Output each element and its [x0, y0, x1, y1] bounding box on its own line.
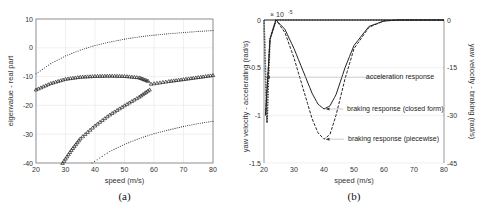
- x-tick-label: 70: [410, 166, 418, 173]
- x-tick-label: 20: [260, 166, 268, 173]
- y-tick-label: 10: [25, 16, 33, 23]
- chart-a: 20304050607080100-10-20-30-40speed (m/s)…: [6, 16, 217, 204]
- triangle-marker: [148, 88, 152, 91]
- x-tick-label: 30: [62, 166, 70, 173]
- y-left-axis-label: yaw velocity - accelerating (rad/s): [241, 40, 250, 152]
- y-axis-label: eigenvalue - real part: [6, 55, 15, 126]
- x-tick-label: 40: [91, 166, 99, 173]
- y-tick-label: -10: [23, 73, 33, 80]
- chart-b: 0-0.5-1-1.50-15-30-4520304050607080× 10-…: [241, 9, 477, 203]
- x-tick-label: 40: [320, 166, 328, 173]
- y-right-tick-label: -45: [447, 160, 457, 167]
- y-left-tick-label: 0: [257, 17, 261, 24]
- y-tick-label: -20: [23, 102, 33, 109]
- x-tick-label: 70: [180, 166, 188, 173]
- scale-exponent-power: -5: [288, 9, 293, 15]
- x-tick-label: 50: [350, 166, 358, 173]
- scale-exponent: × 10: [270, 11, 284, 18]
- caption: (a): [118, 190, 131, 203]
- y-tick-label: 0: [29, 44, 33, 51]
- x-tick-label: 20: [32, 166, 40, 173]
- x-tick-label: 80: [209, 166, 217, 173]
- y-right-axis-label: yaw velocity - braking (rad/s): [468, 44, 477, 140]
- x-axis-label: speed (m/s): [334, 176, 374, 185]
- y-right-tick-label: -15: [447, 64, 457, 71]
- annotation-label: braking response (piecewise): [348, 135, 439, 143]
- y-left-tick-label: -0.5: [249, 64, 261, 71]
- y-tick-label: -30: [23, 131, 33, 138]
- x-tick-label: 30: [290, 166, 298, 173]
- y-right-tick-label: -30: [447, 112, 457, 119]
- annotation-label: acceleration response: [366, 73, 435, 81]
- x-axis-label: speed (m/s): [105, 176, 145, 185]
- y-left-tick-label: -1: [255, 112, 261, 119]
- y-tick-label: -40: [23, 160, 33, 167]
- y-right-tick-label: 0: [447, 17, 451, 24]
- annotation-label: braking response (closed form): [347, 105, 444, 113]
- figure: 20304050607080100-10-20-30-40speed (m/s)…: [0, 0, 479, 211]
- x-tick-label: 60: [150, 166, 158, 173]
- x-tick-label: 50: [121, 166, 129, 173]
- caption: (b): [348, 190, 361, 203]
- x-tick-label: 60: [380, 166, 388, 173]
- x-tick-label: 80: [440, 166, 448, 173]
